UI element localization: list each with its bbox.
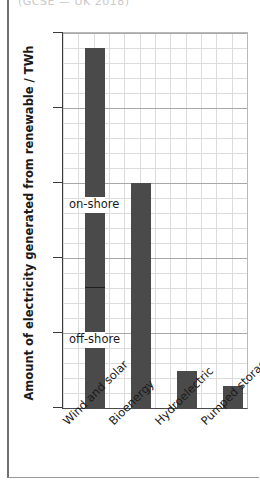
plot-area: on-shore off-shore [63,32,248,409]
y-tick-10 [53,332,62,333]
y-tick-0 [53,407,62,408]
y-tick-30 [53,182,62,183]
y-axis-title: Amount of electricity generated from ren… [22,28,36,418]
bar-chart-figure: Amount of electricity generated from ren… [0,0,260,500]
x-axis-labels: Wind and solar Bioenergy Hydroelectric P… [0,413,260,493]
annotation-off-shore: off-shore [69,334,120,346]
bar-bioenergy[interactable] [131,183,151,408]
y-axis-line [62,32,63,409]
bar-wind-and-solar[interactable] [85,48,105,408]
y-tick-40 [53,107,62,108]
y-tick-50 [53,32,62,33]
onshore-offshore-divider [85,287,105,288]
y-tick-20 [53,257,62,258]
annotation-on-shore: on-shore [69,199,119,211]
